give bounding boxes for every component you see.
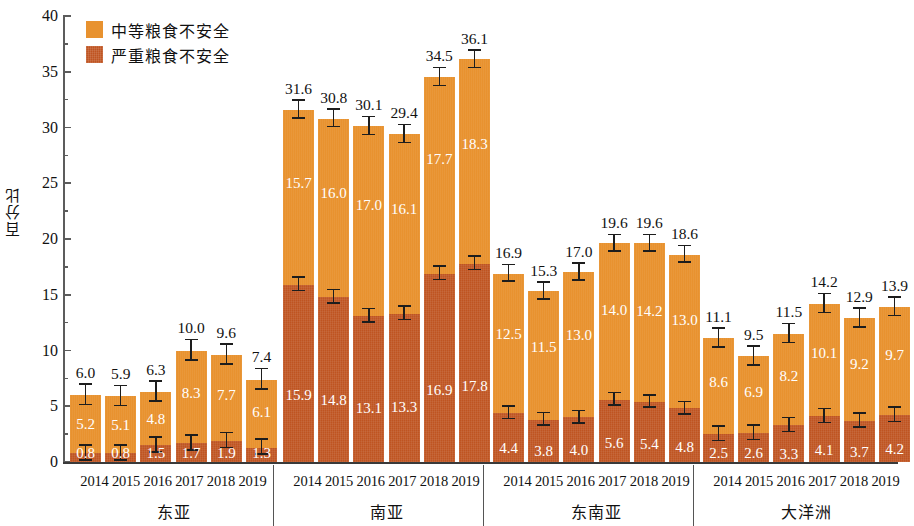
bar-severe-label: 2.5	[703, 446, 734, 461]
bar-total-label: 16.9	[487, 245, 531, 261]
error-bar-cap	[255, 368, 268, 370]
bar-total-label: 9.6	[204, 325, 248, 341]
bar-stack[interactable]	[599, 243, 630, 462]
bar-segment-moderate[interactable]	[563, 272, 594, 417]
bar-stack[interactable]	[459, 59, 490, 462]
bar-stack[interactable]	[669, 255, 700, 462]
error-bar-cap	[292, 117, 305, 119]
bar-segment-severe[interactable]	[599, 400, 630, 462]
bar-severe-label: 13.3	[389, 400, 420, 415]
bar-stack[interactable]	[703, 338, 734, 462]
bar-segment-severe[interactable]	[459, 264, 490, 462]
bar-segment-severe[interactable]	[318, 297, 349, 462]
error-bar-cap	[398, 319, 411, 321]
bar-stack[interactable]	[563, 272, 594, 462]
bar-severe-label: 4.8	[669, 440, 700, 455]
bar-moderate-label: 8.3	[176, 386, 207, 401]
error-bar-total	[474, 51, 476, 69]
bar-severe-label: 0.8	[105, 446, 136, 461]
bar-segment-severe[interactable]	[634, 402, 665, 462]
error-bar-cap	[572, 279, 585, 281]
error-bar-cap	[818, 422, 831, 424]
bar-stack[interactable]	[844, 318, 875, 462]
y-axis-tick-label: 20	[0, 230, 58, 246]
y-axis-tick-label-text: 25	[22, 174, 58, 192]
error-bar-cap	[608, 234, 621, 236]
bar-stack[interactable]	[634, 243, 665, 462]
bar-total-label: 11.1	[697, 309, 741, 325]
bar-moderate-label: 17.0	[353, 198, 384, 213]
error-bar-cap	[712, 440, 725, 442]
bar-severe-label: 17.8	[459, 379, 490, 394]
error-bar-cap	[747, 424, 760, 426]
bar-segment-moderate[interactable]	[493, 274, 524, 413]
bar-segment-moderate[interactable]	[283, 110, 314, 285]
group-name-label: 东南亚	[517, 499, 677, 523]
bar-stack[interactable]	[493, 274, 524, 462]
error-bar-cap	[818, 312, 831, 314]
bar-segment-moderate[interactable]	[669, 255, 700, 409]
bar-moderate-label: 4.8	[140, 412, 171, 427]
error-bar-cap	[537, 298, 550, 300]
y-axis-tick-label: 15	[0, 286, 58, 302]
error-bar-total	[823, 294, 825, 313]
error-bar-cap	[468, 255, 481, 257]
error-bar-total	[298, 101, 300, 119]
error-bar-cap	[818, 293, 831, 295]
y-axis-tick-label-text: 20	[22, 230, 58, 248]
bar-segment-moderate[interactable]	[528, 291, 559, 419]
error-bar-cap	[398, 124, 411, 126]
error-bar-total	[120, 386, 122, 406]
bar-severe-label: 0.8	[70, 446, 101, 461]
error-bar-cap	[853, 307, 866, 309]
error-bar-cap	[149, 436, 162, 438]
bar-stack[interactable]	[773, 334, 804, 462]
bar-moderate-label: 6.9	[738, 385, 769, 400]
bar-segment-moderate[interactable]	[599, 243, 630, 399]
bar-stack[interactable]	[424, 77, 455, 462]
bar-stack[interactable]	[809, 304, 840, 462]
error-bar-cap	[292, 290, 305, 292]
error-bar-cap	[572, 262, 585, 264]
bar-moderate-label: 14.2	[634, 304, 665, 319]
bar-segment-severe[interactable]	[389, 314, 420, 462]
bar-moderate-label: 11.5	[528, 340, 559, 355]
error-bar-cap	[185, 359, 198, 361]
bar-stack[interactable]	[879, 307, 910, 462]
bar-severe-label: 1.7	[176, 446, 207, 461]
error-bar-total	[190, 340, 192, 360]
bar-segment-moderate[interactable]	[634, 243, 665, 401]
error-bar-cap	[782, 431, 795, 433]
error-bar-cap	[502, 418, 515, 420]
error-bar-cap	[712, 346, 725, 348]
bar-severe-label: 3.7	[844, 445, 875, 460]
error-bar-cap	[185, 339, 198, 341]
error-bar-cap	[572, 422, 585, 424]
bar-stack[interactable]	[528, 291, 559, 462]
bar-segment-severe[interactable]	[283, 285, 314, 462]
bar-segment-severe[interactable]	[353, 316, 384, 462]
error-bar-cap	[608, 392, 621, 394]
bar-stack[interactable]	[318, 119, 349, 462]
error-bar-cap	[678, 413, 691, 415]
bar-total-label: 15.3	[522, 263, 566, 279]
error-bar-cap	[853, 326, 866, 328]
error-bar-cap	[888, 421, 901, 423]
bar-moderate-label: 6.1	[246, 405, 277, 420]
bar-moderate-label: 12.5	[493, 327, 524, 342]
bar-segment-severe[interactable]	[424, 274, 455, 462]
bar-segment-moderate[interactable]	[318, 119, 349, 297]
bar-segment-moderate[interactable]	[389, 134, 420, 314]
bar-segment-moderate[interactable]	[459, 59, 490, 263]
bar-segment-moderate[interactable]	[353, 126, 384, 316]
group-year-labels: 2014 2015 2016 2017 2018 2019	[697, 473, 914, 490]
group-name-label: 南亚	[307, 499, 467, 523]
bar-moderate-label: 13.0	[563, 328, 594, 343]
bar-moderate-label: 16.1	[389, 202, 420, 217]
y-axis-tick-label-text: 15	[22, 286, 58, 304]
bar-segment-moderate[interactable]	[424, 77, 455, 273]
error-bar-cap	[782, 323, 795, 325]
error-bar-cap	[468, 49, 481, 51]
error-bar-total	[788, 324, 790, 343]
bar-stack[interactable]	[283, 110, 314, 462]
